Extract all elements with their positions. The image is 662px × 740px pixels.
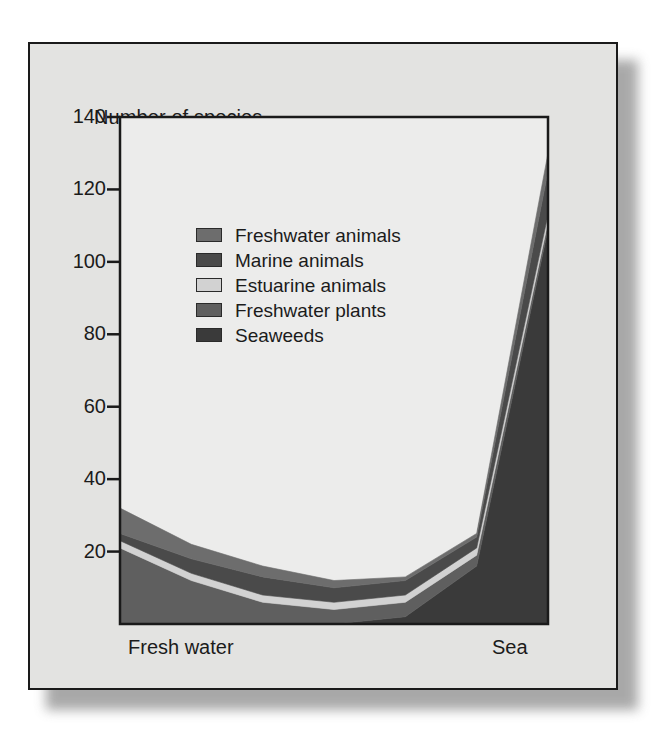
legend-item-label: Estuarine animals xyxy=(235,276,386,295)
legend-swatch-icon xyxy=(196,278,222,292)
y-tick-label: 20 xyxy=(48,540,106,563)
x-label-right: Sea xyxy=(492,636,528,659)
legend-swatch-icon xyxy=(196,303,222,317)
legend-item-label: Freshwater animals xyxy=(235,226,401,245)
y-tick-label: 40 xyxy=(48,467,106,490)
figure-root: Number of species 20406080100120140 Fres… xyxy=(0,0,662,740)
legend-item-label: Seaweeds xyxy=(235,326,324,345)
legend-item: Freshwater animals xyxy=(196,224,401,246)
y-tick-label: 80 xyxy=(48,322,106,345)
legend-swatch-icon xyxy=(196,328,222,342)
y-tick-label: 140 xyxy=(48,105,106,128)
legend-item: Estuarine animals xyxy=(196,274,401,296)
chart-legend: Freshwater animalsMarine animalsEstuarin… xyxy=(196,224,401,346)
legend-item-label: Marine animals xyxy=(235,251,364,270)
legend-item: Seaweeds xyxy=(196,324,401,346)
stacked-area-chart-svg xyxy=(30,44,620,692)
y-tick-label: 100 xyxy=(48,250,106,273)
y-tick-label: 120 xyxy=(48,177,106,200)
legend-item: Marine animals xyxy=(196,249,401,271)
legend-swatch-icon xyxy=(196,253,222,267)
legend-swatch-icon xyxy=(196,228,222,242)
legend-item-label: Freshwater plants xyxy=(235,301,386,320)
x-label-left: Fresh water xyxy=(128,636,234,659)
y-axis xyxy=(107,117,120,552)
legend-item: Freshwater plants xyxy=(196,299,401,321)
plot-area-wrapper: 20406080100120140 Fresh water Sea Freshw… xyxy=(30,44,620,692)
figure-panel: Number of species 20406080100120140 Fres… xyxy=(28,42,618,690)
y-tick-label: 60 xyxy=(48,395,106,418)
